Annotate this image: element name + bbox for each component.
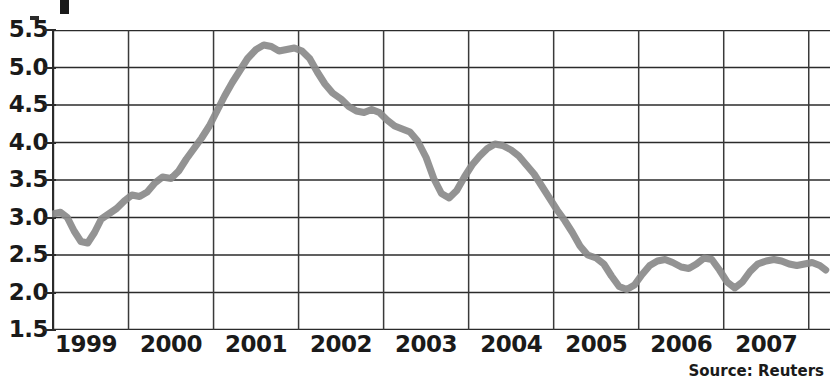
plot-area — [52, 30, 830, 330]
chart-svg — [52, 30, 830, 330]
y-axis-tick-label: 2.5 — [2, 243, 48, 266]
y-axis-tick-label: 4.5 — [2, 93, 48, 116]
x-axis-tick-label: 2004 — [469, 332, 553, 357]
x-axis-tick-label: 2005 — [554, 332, 638, 357]
source-note: Source: Reuters — [688, 362, 824, 380]
y-axis-tick-label: 5.5 — [2, 18, 48, 41]
x-axis-tick-label: 1999 — [44, 332, 128, 357]
x-axis-tick-label: 2000 — [129, 332, 213, 357]
x-axis-labels: 199920002001200220032004200520062007 — [52, 332, 830, 366]
y-axis-tick-label: 2.0 — [2, 281, 48, 304]
x-axis-tick-label: 2006 — [639, 332, 723, 357]
x-axis-tick-label: 2001 — [214, 332, 298, 357]
y-axis-labels: 5.55.04.54.03.53.02.52.01.5 — [0, 0, 48, 386]
data-line-series-1 — [54, 45, 826, 290]
chart-container: 5.55.04.54.03.53.02.52.01.5 199920002001… — [0, 0, 832, 386]
x-axis-tick-label: 2003 — [384, 332, 468, 357]
x-axis-tick-label: 2007 — [724, 332, 808, 357]
x-axis-tick-label: 2002 — [299, 332, 383, 357]
y-axis-tick-label: 3.0 — [2, 206, 48, 229]
y-axis-tick-label: 3.5 — [2, 168, 48, 191]
y-axis-tick-label: 5.0 — [2, 56, 48, 79]
y-axis-tick-label: 4.0 — [2, 131, 48, 154]
cropped-title-fragment-icon — [60, 0, 69, 14]
y-axis-tick-label: 1.5 — [2, 318, 48, 341]
